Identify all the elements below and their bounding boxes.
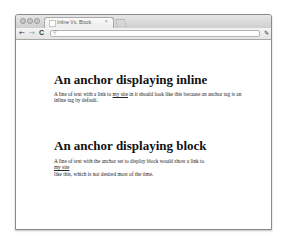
address-bar[interactable]: ⚲ (50, 30, 260, 37)
paragraph-block-text-before: A line of text with the anchor set to di… (54, 158, 204, 164)
page-content: An anchor displaying inline A line of te… (16, 40, 271, 229)
page-favicon-icon (49, 20, 56, 27)
tab-close-icon[interactable]: × (104, 18, 108, 24)
back-arrow-icon[interactable]: ← (19, 29, 25, 37)
tab-title: Inline Vs. Block (57, 19, 91, 25)
tab-inline-vs-block[interactable]: Inline Vs. Block × (44, 17, 114, 28)
paragraph-block: A line of text with the anchor set to di… (54, 158, 254, 177)
wrench-menu-icon[interactable]: ✎ (264, 29, 269, 36)
my-site-link-inline[interactable]: my site (113, 91, 128, 97)
close-window-button[interactable] (20, 18, 26, 24)
browser-window: Inline Vs. Block × ← → C ⚲ ✎ An anchor d… (15, 14, 272, 230)
search-icon: ⚲ (53, 29, 57, 35)
paragraph-inline-text-before: A line of text with a link to (54, 91, 113, 97)
new-tab-button[interactable] (115, 19, 127, 27)
paragraph-inline: A line of text with a link to my site in… (54, 91, 254, 104)
browser-toolbar: ← → C ⚲ ✎ (16, 28, 271, 40)
minimize-window-button[interactable] (27, 18, 33, 24)
reload-icon[interactable]: C (39, 29, 44, 37)
zoom-window-button[interactable] (34, 18, 40, 24)
heading-block: An anchor displaying block (54, 138, 207, 154)
paragraph-block-text-after: like this, which is not desired most of … (54, 171, 153, 177)
forward-arrow-icon[interactable]: → (29, 29, 35, 37)
title-bar: Inline Vs. Block × (16, 15, 271, 28)
heading-inline: An anchor displaying inline (54, 72, 207, 88)
